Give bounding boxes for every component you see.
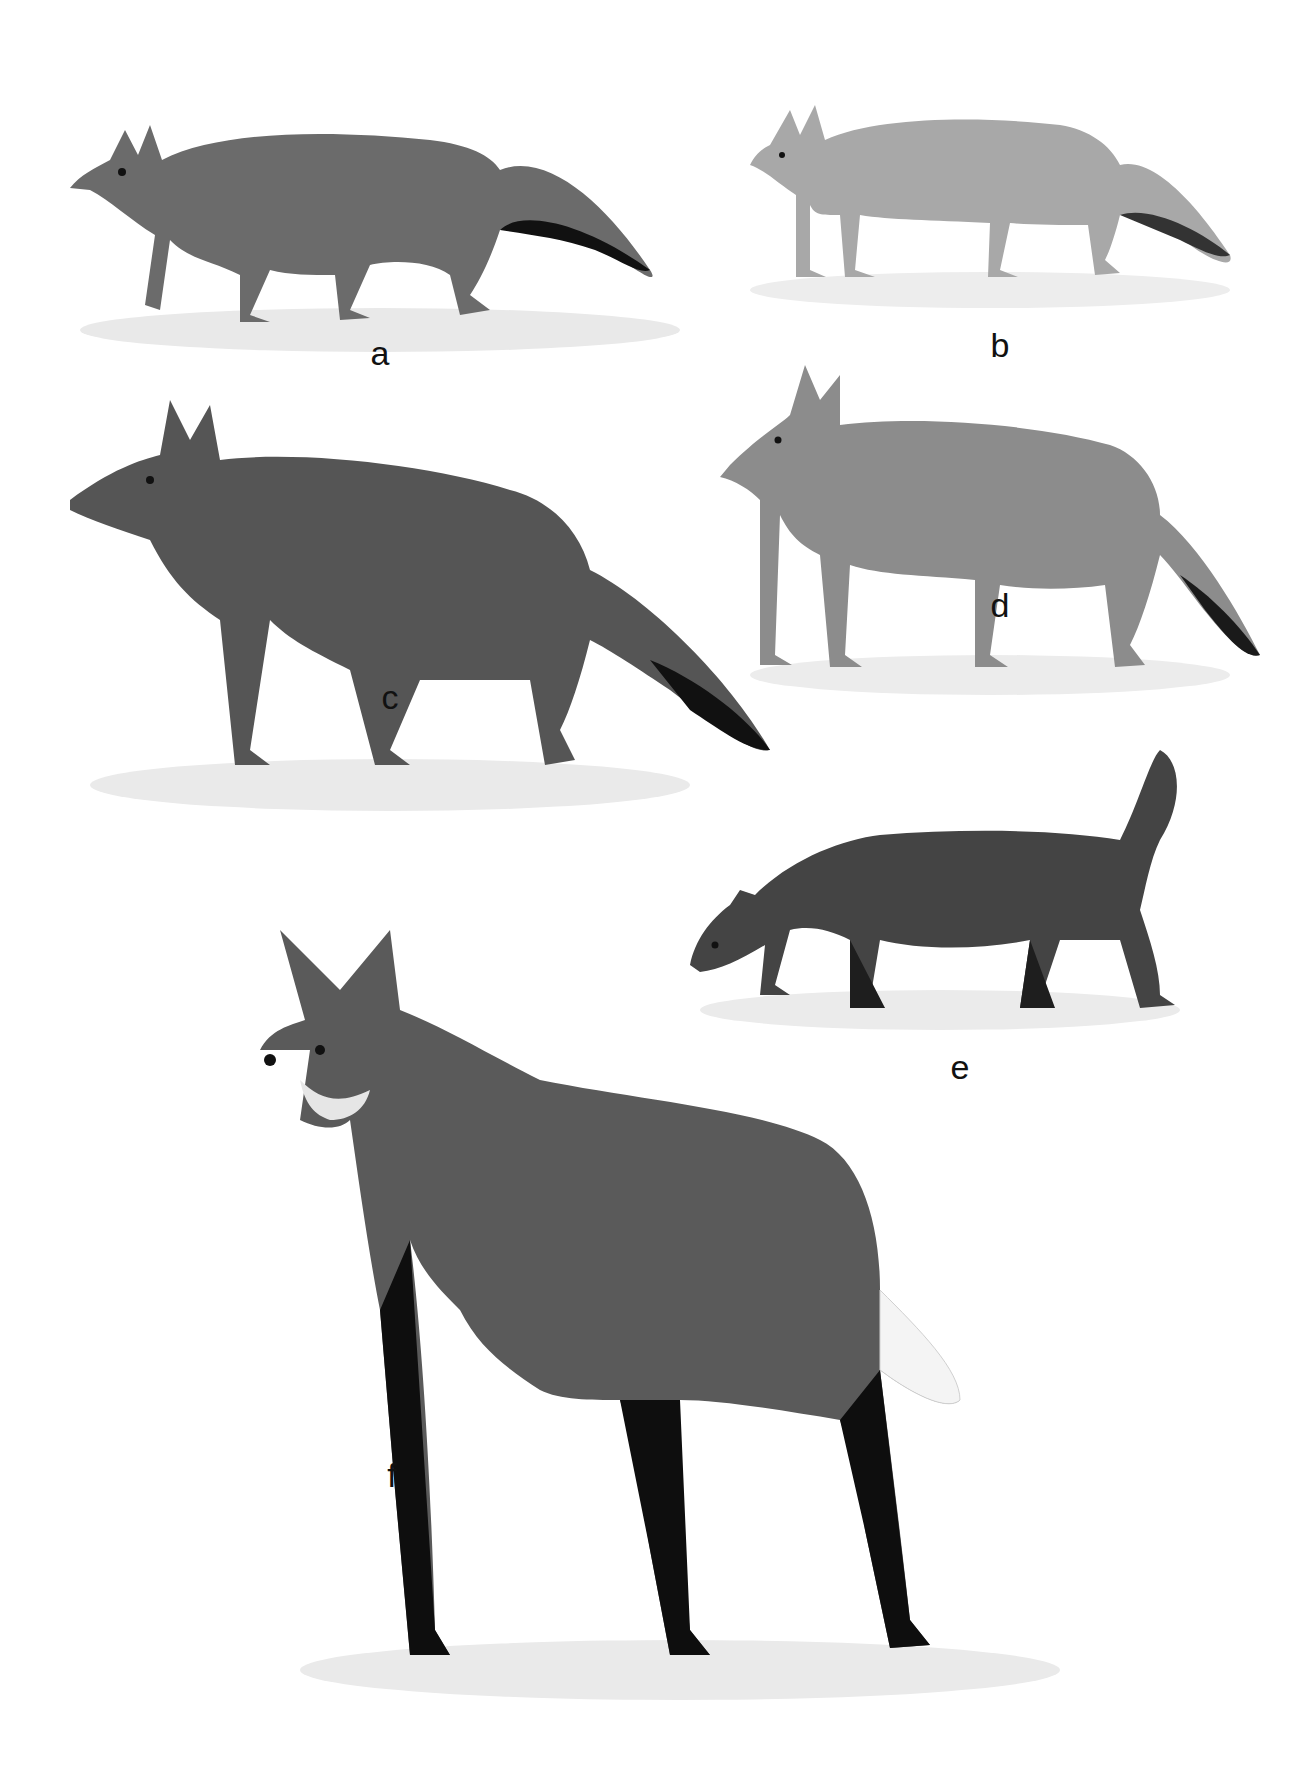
canid-body-f	[260, 930, 960, 1655]
canid-illustration-f	[260, 930, 1100, 1710]
illustration-plate: a b c d	[0, 0, 1300, 1784]
canid-illustration-b	[730, 55, 1250, 315]
canid-illustration-c	[50, 380, 790, 820]
canid-body-a	[70, 125, 653, 322]
figure-label-c: c	[382, 680, 399, 714]
figure-label-a: a	[371, 336, 390, 370]
figure-label-f: f	[387, 1458, 396, 1492]
figure-label-d: d	[991, 588, 1010, 622]
canid-illustration-d	[720, 355, 1260, 705]
canid-body-b	[750, 105, 1231, 277]
canid-body-c	[70, 400, 770, 765]
canid-illustration-a	[50, 60, 710, 360]
